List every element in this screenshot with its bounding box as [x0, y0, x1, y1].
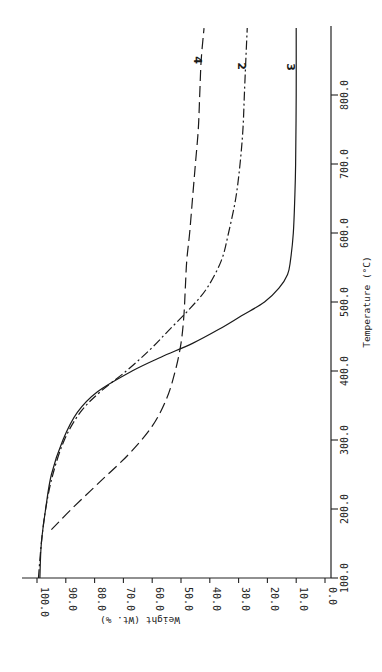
- weight-tick-label: 50.0: [183, 587, 194, 611]
- temperature-tick-label: 600.0: [339, 218, 350, 248]
- temperature-tick-label: 300.0: [339, 425, 350, 455]
- temperature-tick-label: 400.0: [339, 356, 350, 386]
- temperature-tick-label: 100.0: [339, 563, 350, 593]
- temperature-axis-title: Temperature (°C): [361, 256, 372, 348]
- temperature-tick-label: 200.0: [339, 494, 350, 524]
- weight-tick-label: 60.0: [154, 587, 165, 611]
- weight-tick-label: 30.0: [240, 587, 251, 611]
- weight-tick-label: 0.0: [327, 587, 338, 605]
- weight-tick-label: 80.0: [96, 587, 107, 611]
- curve-label-4: 4: [191, 56, 204, 64]
- weight-tick-label: 90.0: [67, 587, 78, 611]
- weight-tick-label: 70.0: [125, 587, 136, 611]
- tga-chart: 100.090.080.070.060.050.040.030.020.010.…: [0, 0, 382, 672]
- curve-3: [40, 28, 296, 578]
- curves: [38, 28, 296, 578]
- curve-label-2: 2: [235, 62, 248, 70]
- temperature-tick-label: 800.0: [339, 80, 350, 110]
- temperature-tick-label: 500.0: [339, 287, 350, 317]
- weight-tick-label: 20.0: [269, 587, 280, 611]
- curve-label-3: 3: [284, 63, 297, 71]
- temperature-tick-label: 700.0: [339, 149, 350, 179]
- weight-axis-title: Weight (Wt. %): [100, 615, 180, 626]
- curve-4: [51, 28, 204, 530]
- weight-tick-label: 10.0: [298, 587, 309, 611]
- weight-tick-label: 40.0: [211, 587, 222, 611]
- curve-labels: 234: [191, 56, 297, 71]
- curve-2: [38, 28, 247, 578]
- axes: 100.090.080.070.060.050.040.030.020.010.…: [22, 26, 350, 617]
- weight-tick-label: 100.0: [39, 587, 50, 617]
